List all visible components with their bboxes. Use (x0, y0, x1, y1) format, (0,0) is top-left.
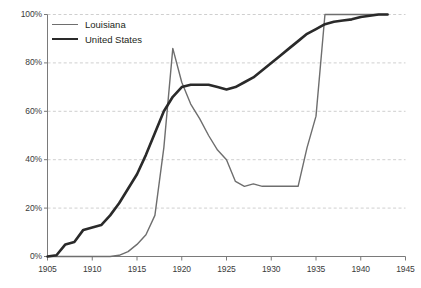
y-axis-tick-label: 0% (2, 251, 42, 261)
series-line-united-states (48, 15, 388, 257)
legend-swatch-icon (52, 38, 78, 40)
chart-legend: LouisianaUnited States (52, 20, 142, 44)
x-axis-tick-label: 1920 (162, 264, 202, 274)
chart-container: 0%20%40%60%80%100%1905191019151920192519… (0, 0, 421, 288)
series-line-louisiana (48, 15, 388, 257)
x-axis-tick-label: 1910 (72, 264, 112, 274)
legend-item[interactable]: United States (52, 35, 142, 45)
y-axis-tick-label: 100% (2, 9, 42, 19)
legend-item[interactable]: Louisiana (52, 20, 142, 30)
y-axis-tick-label: 20% (2, 203, 42, 213)
x-axis-tick-label: 1940 (341, 264, 381, 274)
y-axis-tick-label: 40% (2, 154, 42, 164)
x-axis-tick-label: 1945 (386, 264, 421, 274)
x-axis-tick-label: 1925 (207, 264, 247, 274)
y-axis-tick-label: 60% (2, 106, 42, 116)
x-axis-tick-label: 1905 (28, 264, 68, 274)
x-axis-tick-label: 1935 (296, 264, 336, 274)
x-axis-tick-label: 1930 (251, 264, 291, 274)
y-axis-tick-label: 80% (2, 57, 42, 67)
x-axis-tick-label: 1915 (117, 264, 157, 274)
legend-swatch-icon (52, 24, 78, 25)
legend-label: Louisiana (85, 20, 126, 30)
legend-label: United States (85, 35, 142, 45)
